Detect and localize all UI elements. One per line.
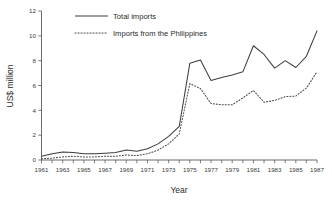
x-tick-label: 1973	[162, 166, 176, 173]
y-axis-title: US$ million	[5, 64, 15, 107]
x-tick-label: 1977	[204, 166, 218, 173]
series-line-total-imports	[42, 31, 318, 156]
x-tick-label: 1975	[183, 166, 197, 173]
y-axis-tick-labels: 024681012	[29, 7, 36, 163]
x-tick-label: 1967	[98, 166, 112, 173]
x-tick-label: 1961	[35, 166, 49, 173]
y-tick-label: 12	[29, 7, 36, 14]
y-tick-label: 0	[33, 156, 37, 163]
y-tick-label: 2	[33, 131, 37, 138]
chart-legend: Total importsImports from the Philippine…	[75, 12, 207, 38]
chart-figure: 024681012 196119631965196719691971197319…	[0, 0, 332, 202]
x-tick-label: 1985	[289, 166, 303, 173]
x-axis-ticks	[42, 160, 318, 163]
legend-label: Imports from the Philippines	[113, 29, 207, 38]
x-tick-label: 1965	[77, 166, 91, 173]
y-axis-ticks	[38, 11, 41, 160]
x-axis-title: Year	[170, 185, 187, 195]
y-tick-label: 10	[29, 32, 36, 39]
x-tick-label: 1971	[141, 166, 155, 173]
x-tick-label: 1983	[268, 166, 282, 173]
series-layer	[42, 31, 318, 159]
y-tick-label: 8	[33, 57, 37, 64]
line-chart: 024681012 196119631965196719691971197319…	[0, 0, 332, 202]
legend-label: Total imports	[113, 12, 156, 21]
x-tick-label: 1963	[56, 166, 70, 173]
x-tick-label: 1969	[119, 166, 133, 173]
x-tick-label: 1979	[225, 166, 239, 173]
y-tick-label: 4	[33, 107, 37, 114]
x-axis-tick-labels: 1961196319651967196919711973197519771979…	[35, 166, 325, 173]
x-tick-label: 1987	[310, 166, 324, 173]
y-tick-label: 6	[33, 82, 37, 89]
x-tick-label: 1981	[247, 166, 261, 173]
series-line-imports-from-the-philippines	[42, 72, 318, 159]
